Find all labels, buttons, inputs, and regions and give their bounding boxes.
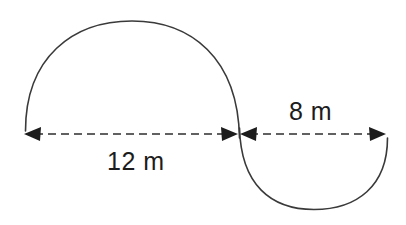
right-dimension-arrowhead-start <box>240 127 257 141</box>
large-upper-arc <box>26 21 240 138</box>
left-dimension-label: 12 m <box>107 149 165 174</box>
left-dimension-arrowhead-start <box>24 127 41 141</box>
right-dimension-label: 8 m <box>289 99 332 124</box>
left-dimension-arrowhead-end <box>221 127 238 141</box>
right-dimension-arrowhead-end <box>369 127 386 141</box>
figure-canvas <box>0 0 406 225</box>
small-lower-arc <box>240 128 388 210</box>
geometry-figure: 12 m 8 m <box>0 0 406 225</box>
